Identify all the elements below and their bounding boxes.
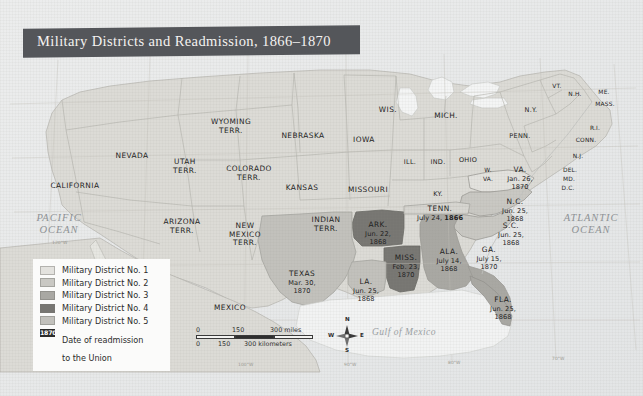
scale-km-zero: 0 bbox=[196, 340, 200, 348]
legend-item-district-2: Military District No. 2 bbox=[40, 277, 164, 290]
page-title: Military Districts and Readmission, 1866… bbox=[37, 33, 331, 50]
legend-date-chip: 1870 bbox=[40, 329, 55, 338]
scale-km-row: 0 150 300 kilometers bbox=[196, 340, 314, 348]
legend-swatch-district-5 bbox=[40, 316, 55, 325]
legend-swatch-district-3 bbox=[40, 291, 55, 300]
scale-bar-graphic bbox=[196, 335, 314, 339]
compass-south-label: S bbox=[345, 347, 349, 353]
legend-label-district-1: Military District No. 1 bbox=[62, 265, 149, 275]
legend-label-district-3: Military District No. 3 bbox=[62, 290, 149, 300]
legend-item-district-3: Military District No. 3 bbox=[40, 289, 164, 302]
compass-west-label: W bbox=[328, 332, 334, 338]
legend-swatch-district-1 bbox=[40, 266, 55, 275]
legend-label-district-4: Military District No. 4 bbox=[62, 303, 149, 313]
compass-east-label: E bbox=[360, 332, 364, 338]
legend-label-district-2: Military District No. 2 bbox=[62, 278, 149, 288]
legend-label-district-5: Military District No. 5 bbox=[62, 316, 149, 326]
scale-km-max: 300 kilometers bbox=[244, 340, 292, 348]
scale-miles-max: 300 miles bbox=[270, 326, 301, 334]
scale-bar: 0 150 300 miles 0 150 300 kilometers bbox=[196, 326, 314, 348]
map-figure: Military Districts and Readmission, 1866… bbox=[0, 0, 643, 396]
legend-swatch-district-2 bbox=[40, 278, 55, 287]
scale-km-mid: 150 bbox=[218, 340, 230, 348]
legend-item-district-5: Military District No. 5 bbox=[40, 314, 164, 327]
compass-rose: N S E W bbox=[327, 316, 367, 354]
legend-date-line2: to the Union bbox=[62, 353, 112, 363]
legend: Military District No. 1 Military Distric… bbox=[33, 259, 170, 371]
legend-item-district-1: Military District No. 1 bbox=[40, 264, 164, 277]
legend-date-line1: Date of readmission bbox=[62, 335, 143, 345]
legend-item-district-4: Military District No. 4 bbox=[40, 302, 164, 315]
legend-swatch-district-4 bbox=[40, 304, 55, 313]
scale-miles-mid: 150 bbox=[232, 326, 244, 334]
scale-miles-zero: 0 bbox=[196, 326, 200, 334]
map-title-bar: Military Districts and Readmission, 1866… bbox=[23, 25, 360, 58]
compass-north-label: N bbox=[345, 316, 350, 322]
scale-miles-row: 0 150 300 miles bbox=[196, 326, 314, 334]
legend-item-readmission-date: 1870 Date of readmission to the Union bbox=[40, 329, 164, 365]
